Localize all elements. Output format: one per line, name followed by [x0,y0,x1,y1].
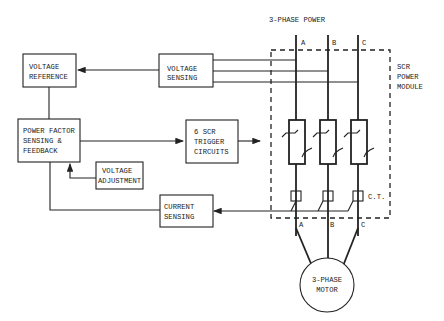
scr-pair-a [282,120,312,164]
ct-label: C.T. [368,193,385,201]
svg-text:TRIGGER: TRIGGER [194,138,225,146]
svg-text:VOLTAGE: VOLTAGE [29,63,59,71]
phase-b-top: B [332,39,337,47]
svg-text:SENSING: SENSING [167,74,197,82]
module-label-1: SCR [397,63,411,71]
svg-text:6 SCR: 6 SCR [194,128,216,136]
scr-pair-b [313,120,343,164]
svg-text:FEEDBACK: FEEDBACK [23,147,58,155]
three-phase-power-title: 3-PHASE POWER [269,16,326,24]
phase-a-bottom: A [299,221,304,229]
phase-c-bottom: C [361,221,366,229]
current-sensing-block [160,195,213,227]
svg-text:SENSING: SENSING [164,213,194,221]
svg-text:MOTOR: MOTOR [316,286,338,294]
svg-text:CURRENT: CURRENT [164,203,195,211]
svg-text:3-PHASE: 3-PHASE [312,276,342,284]
three-phase-motor [300,258,354,312]
module-label-3: MODULE [397,83,423,91]
scr-pair-c [344,120,374,164]
svg-text:ADJUSTMENT: ADJUSTMENT [98,177,142,185]
svg-text:VOLTAGE: VOLTAGE [167,65,197,73]
motor-controller-diagram: 3-PHASE POWER A B C SCR POWER MODULE C.T… [0,0,444,321]
phase-b-bottom: B [330,221,335,229]
svg-text:POWER FACTOR: POWER FACTOR [23,127,75,135]
svg-text:VOLTAGE: VOLTAGE [102,167,132,175]
phase-a-top: A [301,39,306,47]
svg-text:SENSING &: SENSING & [23,137,63,145]
module-label-2: POWER [397,73,419,81]
svg-text:REFERENCE: REFERENCE [29,73,68,81]
svg-text:CIRCUITS: CIRCUITS [194,148,229,156]
phase-c-top: C [362,39,367,47]
